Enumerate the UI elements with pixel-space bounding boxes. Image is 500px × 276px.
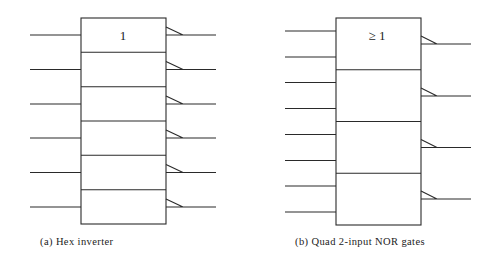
logic-gates-figure: 1 ≥ 1	[0, 0, 500, 276]
quad-nor-caption: (b) Quad 2-input NOR gates	[295, 236, 425, 247]
hex-inverter-outputs	[166, 27, 216, 207]
hex-inverter-diagram: 1	[30, 18, 216, 224]
inverter-symbol: 1	[120, 28, 127, 43]
quad-nor-outputs	[421, 36, 471, 199]
quad-nor-diagram: ≥ 1	[285, 18, 471, 225]
nor-symbol: ≥ 1	[369, 28, 386, 43]
hex-inverter-caption: (a) Hex inverter	[40, 236, 113, 247]
quad-nor-inputs	[285, 31, 336, 212]
hex-inverter-inputs	[30, 35, 81, 207]
